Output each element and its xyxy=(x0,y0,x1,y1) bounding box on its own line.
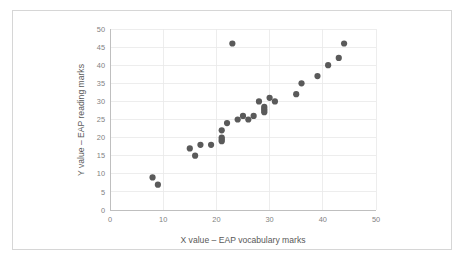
y-axis-title: Y value – EAP reading marks xyxy=(76,64,86,176)
x-tick-label: 40 xyxy=(319,215,327,224)
data-point xyxy=(251,113,257,119)
data-point xyxy=(298,80,304,86)
y-tick-label: 0 xyxy=(101,206,105,215)
data-point xyxy=(272,98,278,104)
data-point xyxy=(293,91,299,97)
scatter-chart-figure: 05101520253035404550 01020304050 X value… xyxy=(0,0,464,265)
data-point xyxy=(208,142,214,148)
data-point xyxy=(314,73,320,79)
y-tick-label: 20 xyxy=(97,133,105,142)
x-axis-title: X value – EAP vocabulary marks xyxy=(181,235,306,245)
x-axis-tick-labels: 01020304050 xyxy=(108,215,380,224)
y-axis-tick-labels: 05101520253035404550 xyxy=(97,25,105,215)
y-tick-label: 45 xyxy=(97,43,105,52)
data-point xyxy=(235,116,241,122)
data-point xyxy=(267,95,273,101)
data-point xyxy=(240,113,246,119)
data-point xyxy=(229,40,235,46)
y-tick-label: 35 xyxy=(97,79,105,88)
data-point xyxy=(224,120,230,126)
y-tick-label: 5 xyxy=(101,188,105,197)
data-point xyxy=(261,109,267,115)
y-tick-label: 30 xyxy=(97,97,105,106)
data-point xyxy=(197,142,203,148)
y-tick-label: 15 xyxy=(97,151,105,160)
x-tick-label: 10 xyxy=(159,215,167,224)
data-point xyxy=(192,153,198,159)
data-point xyxy=(341,40,347,46)
y-tick-label: 25 xyxy=(97,115,105,124)
chart-canvas: 05101520253035404550 01020304050 X value… xyxy=(0,0,464,265)
y-tick-label: 50 xyxy=(97,25,105,34)
data-point xyxy=(219,138,225,144)
x-tick-label: 30 xyxy=(265,215,273,224)
data-point xyxy=(155,182,161,188)
data-point xyxy=(187,145,193,151)
x-tick-label: 20 xyxy=(212,215,220,224)
data-point xyxy=(245,116,251,122)
x-tick-label: 50 xyxy=(372,215,380,224)
data-point xyxy=(256,98,262,104)
data-point xyxy=(325,62,331,68)
data-point xyxy=(219,127,225,133)
x-tick-label: 0 xyxy=(108,215,112,224)
data-point xyxy=(149,174,155,180)
data-point xyxy=(336,55,342,61)
y-tick-label: 40 xyxy=(97,61,105,70)
y-tick-label: 10 xyxy=(97,169,105,178)
